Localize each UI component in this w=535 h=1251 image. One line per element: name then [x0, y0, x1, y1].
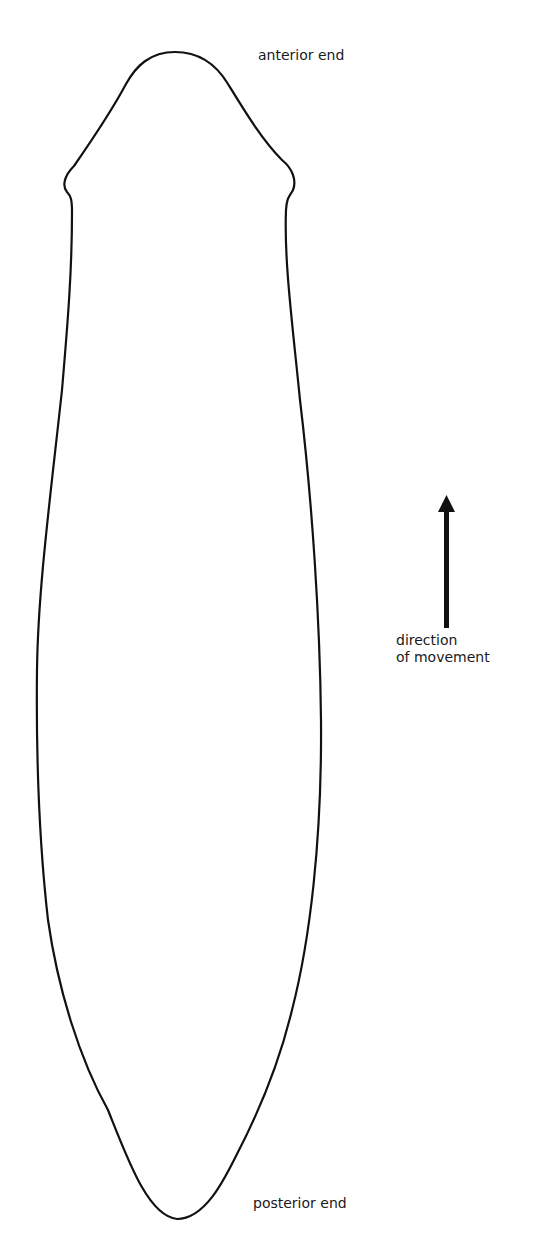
body-outline-drawing — [0, 0, 535, 1251]
arrow-up-icon — [438, 495, 455, 628]
body-outline — [37, 52, 321, 1219]
diagram-figure: anterior end direction of movement poste… — [0, 0, 535, 1251]
direction-label-line1: direction — [396, 632, 490, 649]
direction-label-line2: of movement — [396, 649, 490, 666]
anterior-end-label: anterior end — [258, 47, 344, 64]
direction-of-movement-label: direction of movement — [396, 632, 490, 666]
posterior-end-label: posterior end — [253, 1195, 347, 1212]
